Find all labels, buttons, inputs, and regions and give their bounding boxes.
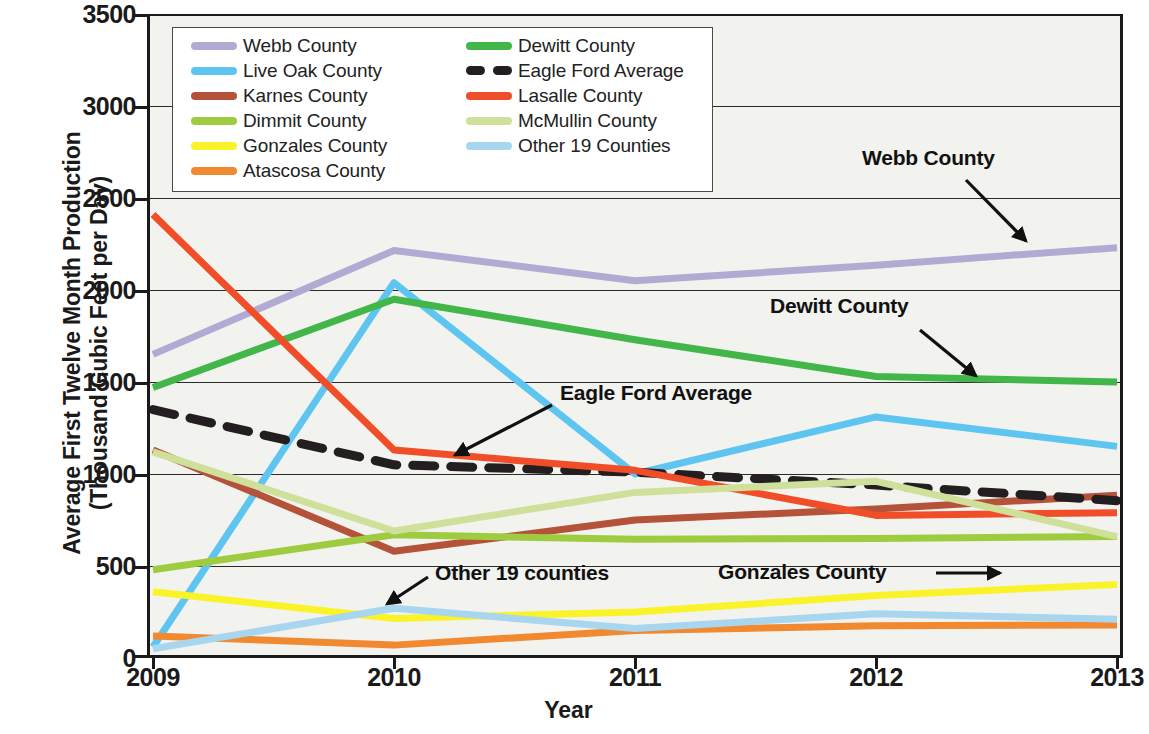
legend-item-gonzales-county[interactable]: Gonzales County [191, 133, 387, 158]
legend-column-left: Webb CountyLive Oak CountyKarnes CountyD… [191, 33, 387, 183]
y-tick-label-500: 500 [50, 552, 136, 581]
legend-item-mcmullin-county[interactable]: McMullin County [466, 108, 684, 133]
y-tick-label-3000: 3000 [50, 92, 136, 121]
y-tick-mark-2500 [134, 198, 147, 201]
legend-swatch-icon [466, 67, 512, 75]
x-tick-label-2010: 2010 [334, 663, 454, 692]
legend-item-live-oak-county[interactable]: Live Oak County [191, 58, 387, 83]
legend-label: Webb County [243, 35, 357, 57]
legend-swatch-icon [191, 117, 237, 125]
y-tick-mark-3500 [134, 14, 147, 17]
legend-swatch-icon [466, 42, 512, 50]
legend-swatch-icon [191, 167, 237, 175]
y-tick-label-1500: 1500 [50, 368, 136, 397]
legend-item-eagle-ford-average[interactable]: Eagle Ford Average [466, 58, 684, 83]
legend-swatch-icon [191, 42, 237, 50]
annotation-webb-county: Webb County [862, 146, 995, 170]
legend-item-other-19-counties[interactable]: Other 19 Counties [466, 133, 684, 158]
legend-swatch-icon [466, 117, 512, 125]
x-tick-label-2009: 2009 [93, 663, 213, 692]
legend-item-atascosa-county[interactable]: Atascosa County [191, 158, 387, 183]
series-line-dewitt-county [153, 299, 1117, 387]
axis-line-top [147, 14, 1123, 16]
y-tick-mark-500 [134, 566, 147, 569]
y-tick-mark-3000 [134, 106, 147, 109]
legend-label: Karnes County [243, 85, 367, 107]
x-tick-label-2011: 2011 [575, 663, 695, 692]
legend-swatch-icon [191, 92, 237, 100]
x-tick-label-2012: 2012 [816, 663, 936, 692]
annotation-dewitt-county: Dewitt County [770, 294, 909, 318]
legend-label: Lasalle County [518, 85, 642, 107]
annotation-gonzales-county: Gonzales County [718, 560, 887, 584]
legend-label: Dewitt County [518, 35, 635, 57]
legend-column-right: Dewitt CountyEagle Ford AverageLasalle C… [466, 33, 684, 158]
legend-swatch-icon [466, 142, 512, 150]
annotation-eagle-ford-average: Eagle Ford Average [560, 381, 752, 405]
y-tick-label-2500: 2500 [50, 184, 136, 213]
legend-label: Atascosa County [243, 160, 385, 182]
legend-swatch-icon [466, 92, 512, 100]
y-tick-label-3500: 3500 [50, 0, 136, 29]
axis-line-right [1120, 14, 1123, 658]
legend: Webb CountyLive Oak CountyKarnes CountyD… [172, 27, 713, 192]
legend-label: McMullin County [518, 110, 657, 132]
x-axis-title: Year [0, 697, 1137, 724]
y-tick-mark-1500 [134, 382, 147, 385]
legend-swatch-icon [191, 67, 237, 75]
y-tick-mark-0 [134, 655, 147, 658]
legend-item-dimmit-county[interactable]: Dimmit County [191, 108, 387, 133]
y-tick-label-1000: 1000 [50, 460, 136, 489]
legend-label: Other 19 Counties [518, 135, 671, 157]
y-tick-mark-1000 [134, 474, 147, 477]
legend-item-webb-county[interactable]: Webb County [191, 33, 387, 58]
legend-swatch-icon [191, 142, 237, 150]
axis-line-left [147, 14, 150, 658]
x-tick-label-2013: 2013 [1057, 663, 1149, 692]
legend-item-dewitt-county[interactable]: Dewitt County [466, 33, 684, 58]
annotation-other-19-counties: Other 19 counties [435, 561, 609, 585]
series-line-mcmullin-county [153, 452, 1117, 537]
y-tick-mark-2000 [134, 290, 147, 293]
series-line-dimmit-county [153, 535, 1117, 570]
legend-label: Gonzales County [243, 135, 387, 157]
legend-label: Dimmit County [243, 110, 366, 132]
legend-item-lasalle-county[interactable]: Lasalle County [466, 83, 684, 108]
legend-label: Live Oak County [243, 60, 382, 82]
y-axis-tick-labels: 3500300025002000150010005000 [0, 0, 136, 734]
legend-item-karnes-county[interactable]: Karnes County [191, 83, 387, 108]
y-tick-label-2000: 2000 [50, 276, 136, 305]
legend-label: Eagle Ford Average [518, 60, 684, 82]
